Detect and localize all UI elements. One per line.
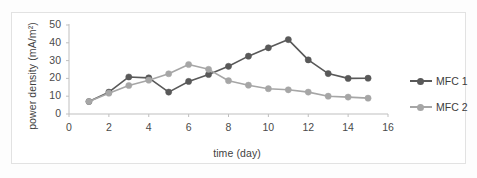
x-tick-label: 4 <box>139 121 159 133</box>
data-point <box>166 71 172 77</box>
data-point <box>325 93 331 99</box>
data-point <box>205 66 211 72</box>
x-tick-label: 16 <box>378 121 398 133</box>
legend-label: MFC 1 <box>436 75 468 87</box>
data-point <box>245 82 251 88</box>
data-point <box>305 57 311 63</box>
legend-dot-icon <box>417 78 424 85</box>
x-tick-label: 14 <box>338 121 358 133</box>
legend-item-2[interactable]: MFC 2 <box>410 97 477 117</box>
data-point <box>106 90 112 96</box>
legend-dot-icon <box>417 104 424 111</box>
chart-frame: power density (mA/m²) time (day) 0102030… <box>11 12 466 164</box>
data-point <box>225 63 231 69</box>
data-point <box>345 75 351 81</box>
x-axis-title: time (day) <box>213 147 261 159</box>
y-tick-label: 50 <box>39 18 61 30</box>
y-tick-label: 40 <box>39 36 61 48</box>
data-point <box>186 78 192 84</box>
data-point <box>305 89 311 95</box>
data-point <box>325 70 331 76</box>
data-point <box>186 61 192 67</box>
figure-canvas: power density (mA/m²) time (day) 0102030… <box>0 0 477 178</box>
x-tick-label: 10 <box>258 121 278 133</box>
data-point <box>285 36 291 42</box>
x-axis-title-wrapper: time (day) <box>72 143 402 161</box>
y-tick-label: 30 <box>39 54 61 66</box>
data-point <box>225 78 231 84</box>
x-tick-label: 0 <box>59 121 79 133</box>
data-point <box>365 95 371 101</box>
y-axis-title-wrapper: power density (mA/m²) <box>22 11 38 141</box>
data-point <box>86 98 92 104</box>
data-point <box>245 53 251 59</box>
data-point <box>166 89 172 95</box>
series-line-1 <box>89 40 368 102</box>
data-point <box>126 82 132 88</box>
legend: MFC 1MFC 2 <box>410 71 477 123</box>
legend-item-1[interactable]: MFC 1 <box>410 71 477 91</box>
x-tick-label: 12 <box>298 121 318 133</box>
x-tick-label: 6 <box>179 121 199 133</box>
data-point <box>265 45 271 51</box>
y-tick-label: 10 <box>39 89 61 101</box>
series-layer <box>86 36 371 104</box>
data-point <box>285 87 291 93</box>
legend-marker-icon <box>410 102 432 112</box>
y-tick-label: 20 <box>39 71 61 83</box>
data-point <box>365 75 371 81</box>
legend-marker-icon <box>410 76 432 86</box>
tick-marks <box>66 25 388 117</box>
data-point <box>146 77 152 83</box>
data-point <box>126 74 132 80</box>
y-axis-title: power density (mA/m²) <box>26 22 38 130</box>
legend-label: MFC 2 <box>436 101 468 113</box>
x-tick-label: 8 <box>219 121 239 133</box>
data-point <box>345 94 351 100</box>
x-tick-label: 2 <box>99 121 119 133</box>
y-tick-label: 0 <box>39 107 61 119</box>
data-point <box>265 86 271 92</box>
